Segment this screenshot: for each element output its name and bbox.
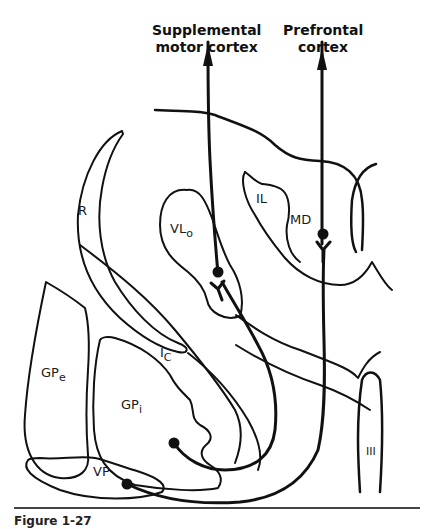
label-gpe-sub: e <box>59 371 66 384</box>
label-iii: III <box>366 446 376 457</box>
il-md-outline <box>243 172 392 290</box>
label-il: IL <box>256 192 267 205</box>
internal-capsule-line-2 <box>188 353 260 470</box>
gpi-outline <box>93 337 221 490</box>
label-md: MD <box>290 213 311 226</box>
target-sma-line1: Supplemental <box>152 22 261 39</box>
target-pfc-line1: Prefrontal <box>283 22 363 39</box>
neuron-md <box>318 229 329 240</box>
label-vlo-main: VL <box>170 221 186 236</box>
pathway-gpi-to-vlo <box>174 282 276 470</box>
pathway-vlo-to-sma <box>208 42 218 274</box>
third-ventricle-outline <box>358 373 382 493</box>
caption-divider <box>14 507 420 509</box>
internal-capsule-lower <box>236 345 370 410</box>
neuron-vp <box>122 479 133 490</box>
label-gpi: GPi <box>121 398 142 415</box>
neuron-vlo <box>213 267 224 278</box>
label-vlo: VLo <box>170 222 193 239</box>
label-gpe-main: GP <box>41 365 59 380</box>
reticular-nucleus-outline <box>78 131 187 352</box>
label-vp: VP <box>93 465 110 478</box>
label-gpi-sub: i <box>139 403 142 416</box>
label-r: R <box>78 204 87 217</box>
target-label-pfc: Prefrontal cortex <box>283 22 363 56</box>
label-vlo-sub: o <box>186 227 193 240</box>
label-gpe: GPe <box>41 366 66 383</box>
neuron-gpi <box>169 438 180 449</box>
target-label-sma: Supplemental motor cortex <box>152 22 261 56</box>
terminal-y-md <box>317 242 330 262</box>
terminal-y-vlo <box>211 281 224 300</box>
vlo-outline <box>160 190 242 318</box>
target-pfc-line2: cortex <box>283 39 363 56</box>
figure-caption: Figure 1-27 <box>14 514 92 528</box>
target-sma-line2: motor cortex <box>152 39 261 56</box>
label-ic-sub: C <box>164 351 172 364</box>
label-gpi-main: GP <box>121 397 139 412</box>
label-ic: IC <box>160 346 172 363</box>
